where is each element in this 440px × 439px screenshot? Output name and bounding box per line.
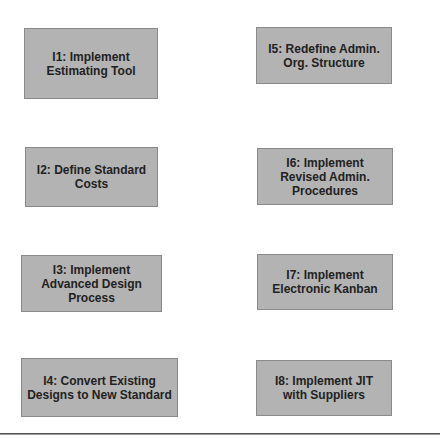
initiative-box-i3: I3: Implement Advanced Design Process bbox=[21, 255, 162, 312]
initiative-box-i4: I4: Convert Existing Designs to New Stan… bbox=[21, 358, 178, 417]
initiative-box-i6: I6: Implement Revised Admin. Procedures bbox=[257, 148, 393, 205]
initiative-box-i8: I8: Implement JIT with Suppliers bbox=[256, 360, 392, 416]
initiative-box-i1: I1: Implement Estimating Tool bbox=[24, 28, 158, 99]
initiative-box-i7: I7: Implement Electronic Kanban bbox=[257, 254, 393, 310]
initiative-box-i2: I2: Define Standard Costs bbox=[25, 147, 158, 207]
bottom-divider bbox=[0, 433, 440, 435]
initiative-box-i5: I5: Redefine Admin. Org. Structure bbox=[256, 27, 392, 84]
